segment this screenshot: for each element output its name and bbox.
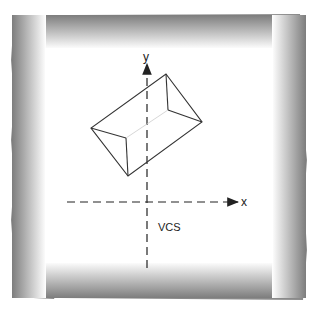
torn-paper-border <box>11 14 307 300</box>
diagram-title: VCS <box>158 221 181 233</box>
vcs-diagram: x y VCS <box>0 0 319 316</box>
diagram-frame: x y VCS <box>0 0 319 316</box>
y-axis-label: y <box>143 50 149 64</box>
x-axis-label: x <box>241 195 247 209</box>
